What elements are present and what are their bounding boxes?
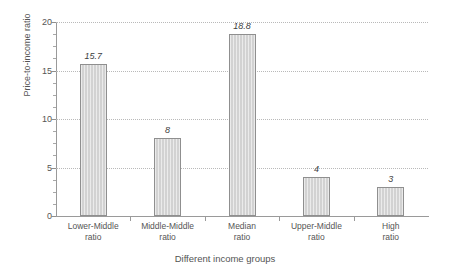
y-axis-minor-tick: [53, 143, 56, 144]
y-axis-major-tick: [51, 22, 56, 23]
x-axis-title: Different income groups: [0, 253, 450, 264]
y-axis-tick-labels: 05101520: [30, 22, 52, 216]
y-axis-major-tick: [51, 168, 56, 169]
y-axis-tick-label: 20: [30, 18, 52, 27]
x-axis-category-label: Highratio: [343, 221, 439, 243]
y-axis-minor-tick: [53, 95, 56, 96]
y-axis-minor-tick: [53, 204, 56, 205]
y-axis-minor-tick: [53, 46, 56, 47]
bar-value-label: 18.8: [233, 21, 251, 31]
y-axis-tick-label: 10: [30, 115, 52, 124]
y-axis-minor-tick: [53, 58, 56, 59]
bar: [80, 64, 107, 216]
y-axis-tick-label: 0: [30, 212, 52, 221]
y-axis-tick-label: 15: [30, 66, 52, 75]
x-axis-category-label-line: ratio: [343, 232, 439, 243]
y-axis-minor-tick: [53, 192, 56, 193]
y-axis-tick-label: 5: [30, 163, 52, 172]
plot-area: 15.7818.843: [56, 22, 428, 216]
y-axis-major-tick: [51, 119, 56, 120]
bar-value-label: 3: [388, 174, 393, 184]
y-axis-minor-tick: [53, 83, 56, 84]
y-axis-major-tick: [51, 216, 56, 217]
x-axis-line: [56, 216, 429, 217]
bar: [229, 34, 256, 216]
bar-value-label: 15.7: [84, 51, 102, 61]
bar-value-label: 4: [314, 164, 319, 174]
y-axis-minor-tick: [53, 180, 56, 181]
y-axis-minor-tick: [53, 155, 56, 156]
bar-chart: Price-to-income ratio 05101520 15.7818.8…: [0, 0, 450, 278]
y-axis-minor-tick: [53, 34, 56, 35]
y-axis-minor-tick: [53, 107, 56, 108]
bar-value-label: 8: [165, 125, 170, 135]
y-axis-major-tick: [51, 71, 56, 72]
bar: [303, 177, 330, 216]
bar: [154, 138, 181, 216]
y-axis-minor-tick: [53, 131, 56, 132]
x-axis-category-label-line: High: [343, 221, 439, 232]
bar: [377, 187, 404, 216]
